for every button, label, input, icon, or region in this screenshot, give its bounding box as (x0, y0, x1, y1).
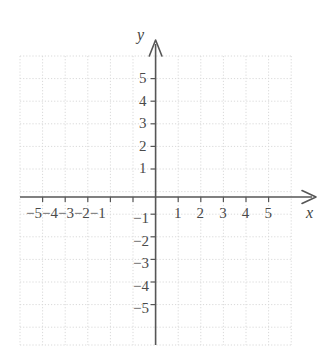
y-tick-label-3: 3 (139, 116, 147, 131)
y-tick-label-2: 2 (139, 139, 147, 154)
coordinate-plane-figure: y x −5−4−3−2−1 1 2 3 4 5 5 4 3 2 1 −1 −2… (0, 0, 336, 363)
x-tick-label-4: 4 (242, 206, 250, 221)
y-tick-label-4: 4 (139, 94, 147, 109)
x-tick-labels-negative: −5−4−3−2−1 (26, 206, 106, 221)
y-tick-label-minus-4: −4 (133, 279, 149, 294)
x-axis-label: x (306, 205, 313, 221)
x-tick-label-2: 2 (197, 206, 205, 221)
x-tick-label-3: 3 (219, 206, 227, 221)
y-axis-label: y (137, 27, 144, 43)
y-tick-label-minus-5: −5 (133, 301, 149, 316)
y-tick-label-minus-1: −1 (133, 211, 149, 226)
axis-layer (0, 0, 336, 363)
y-tick-label-1: 1 (139, 161, 147, 176)
x-tick-label-1: 1 (174, 206, 182, 221)
x-tick-label-5: 5 (264, 206, 272, 221)
y-tick-label-minus-2: −2 (133, 234, 149, 249)
y-tick-label-minus-3: −3 (133, 256, 149, 271)
y-tick-label-5: 5 (139, 71, 147, 86)
